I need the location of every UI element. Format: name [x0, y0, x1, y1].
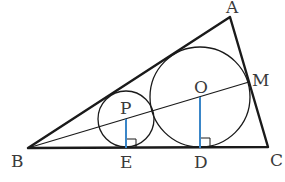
triangle-abc [28, 17, 268, 148]
label-o: O [194, 77, 208, 97]
label-e: E [120, 152, 132, 172]
label-a: A [225, 0, 239, 17]
line-bm [28, 82, 249, 148]
label-d: D [194, 152, 208, 172]
geometry-diagram: A B C M P O E D [0, 0, 285, 182]
label-m: M [252, 70, 269, 90]
label-c: C [270, 150, 283, 170]
label-p: P [120, 98, 131, 118]
label-b: B [11, 151, 24, 171]
